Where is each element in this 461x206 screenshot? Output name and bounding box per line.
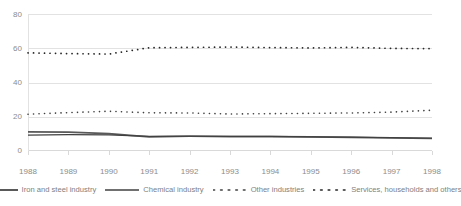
x-tick-mark <box>230 151 231 155</box>
y-tick-label: 60 <box>0 45 22 53</box>
x-tick-label: 1994 <box>250 168 290 176</box>
x-tick-mark <box>68 151 69 155</box>
x-tick-mark <box>149 151 150 155</box>
x-tick-mark <box>28 151 29 155</box>
x-tick-label: 1995 <box>291 168 331 176</box>
y-tick-label: 20 <box>0 113 22 121</box>
legend-label: Chemical industry <box>143 186 203 194</box>
x-tick-mark <box>351 151 352 155</box>
x-tick-mark <box>190 151 191 155</box>
dotted-line-swatch-icon <box>213 186 247 194</box>
legend-item-iron-and-steel-industry[interactable]: Iron and steel industry <box>0 186 96 194</box>
x-tick-label: 1990 <box>89 168 129 176</box>
x-tick-label: 1996 <box>331 168 371 176</box>
x-tick-label: 1997 <box>372 168 412 176</box>
legend-label: Iron and steel industry <box>22 186 97 194</box>
x-tick-mark <box>270 151 271 155</box>
x-tick-label: 1989 <box>48 168 88 176</box>
legend-item-chemical-industry[interactable]: Chemical industry <box>105 186 203 194</box>
y-tick-label: 40 <box>0 79 22 87</box>
x-tick-mark <box>109 151 110 155</box>
x-tick-label: 1991 <box>129 168 169 176</box>
x-tick-label: 1992 <box>170 168 210 176</box>
chart-legend: Iron and steel industry Chemical industr… <box>0 182 445 198</box>
x-tick-label: 1993 <box>210 168 250 176</box>
x-tick-mark <box>311 151 312 155</box>
solid-line-swatch-icon <box>105 186 139 194</box>
y-tick-label: 0 <box>0 147 22 155</box>
legend-label: Other industries <box>251 186 305 194</box>
x-tick-mark <box>432 151 433 155</box>
solid-line-swatch-icon <box>0 186 18 194</box>
legend-label: Services, households and others <box>351 186 461 194</box>
x-axis-labels: 1988198919901991199219931994199519961997… <box>28 14 432 184</box>
dotted-line-swatch-icon <box>313 186 347 194</box>
y-tick-label: 80 <box>0 11 22 19</box>
x-tick-label: 1998 <box>412 168 452 176</box>
legend-item-services-households-and-others[interactable]: Services, households and others <box>313 186 461 194</box>
x-tick-mark <box>392 151 393 155</box>
legend-item-other-industries[interactable]: Other industries <box>213 186 305 194</box>
x-tick-label: 1988 <box>8 168 48 176</box>
